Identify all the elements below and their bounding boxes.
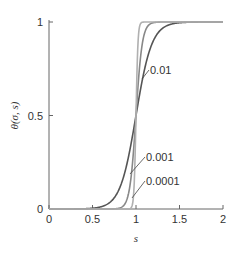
y-tick-label: 0.5: [28, 110, 43, 122]
x-tick-label: 1.5: [172, 213, 187, 225]
y-axis-label: θ(σ, s): [8, 101, 21, 129]
chart: 00.511.5200.51sθ(σ, s)0.010.0010.0001: [0, 0, 237, 254]
x-tick-label: 1: [133, 213, 139, 225]
x-tick-label: 2: [220, 213, 226, 225]
x-tick-label: 0.5: [85, 213, 100, 225]
x-axis-label: s: [134, 232, 138, 244]
x-tick-label: 0: [46, 213, 52, 225]
y-tick-label: 1: [37, 16, 43, 28]
annotation-label: 0.01: [150, 64, 171, 76]
annotation-label: 0.001: [146, 151, 174, 163]
curves: [49, 22, 223, 209]
y-tick-label: 0: [37, 203, 43, 215]
annotation-label: 0.0001: [146, 175, 180, 187]
curve-0.0001: [49, 22, 223, 209]
